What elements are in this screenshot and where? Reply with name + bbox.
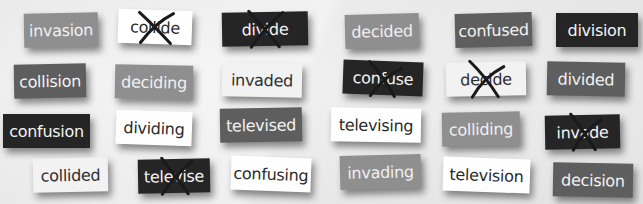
word-card-decided[interactable]: decided (345, 13, 420, 49)
word-label: invading (347, 162, 414, 183)
word-card-invade[interactable]: invade (545, 114, 621, 149)
word-label: collided (40, 165, 100, 185)
word-card-collide[interactable]: collide (117, 9, 192, 46)
word-card-invaded[interactable]: invaded (222, 62, 303, 97)
word-label: dividing (123, 117, 185, 138)
word-label: televised (226, 115, 296, 135)
word-card-invading[interactable]: invading (340, 154, 422, 190)
word-label: decided (351, 21, 413, 42)
word-card-deciding[interactable]: deciding (115, 64, 194, 99)
word-label: collide (130, 17, 180, 38)
word-label: invade (556, 122, 608, 142)
word-card-decision[interactable]: decision (553, 162, 634, 197)
word-label: confusion (9, 122, 84, 141)
word-card-televise[interactable]: televise (138, 158, 211, 193)
word-label: deciding (121, 72, 187, 92)
word-label: televise (144, 166, 204, 186)
word-label: invasion (29, 20, 93, 40)
word-card-confusion[interactable]: confusion (3, 114, 90, 148)
word-label: divide (241, 19, 288, 39)
word-label: division (568, 21, 627, 40)
word-card-decide[interactable]: decide (446, 61, 527, 96)
word-card-division[interactable]: division (556, 13, 638, 47)
word-label: divided (558, 69, 615, 89)
word-card-collided[interactable]: collided (33, 157, 109, 192)
word-label: confusing (233, 163, 309, 185)
word-label: confused (458, 20, 529, 41)
word-card-televising[interactable]: televising (331, 107, 422, 143)
word-card-confused[interactable]: confused (455, 12, 533, 48)
word-card-televised[interactable]: televised (220, 107, 303, 142)
word-card-television[interactable]: television (442, 156, 530, 193)
word-label: colliding (449, 119, 513, 139)
word-label: television (449, 164, 524, 186)
word-label: decide (460, 69, 512, 89)
word-card-divided[interactable]: divided (547, 61, 626, 96)
word-label: decision (561, 170, 625, 190)
word-card-colliding[interactable]: colliding (442, 111, 521, 146)
word-card-confusing[interactable]: confusing (230, 156, 311, 193)
word-card-invasion[interactable]: invasion (24, 12, 99, 47)
word-label: televising (339, 115, 414, 135)
word-label: confuse (352, 67, 413, 88)
word-label: collision (19, 71, 81, 91)
word-card-dividing[interactable]: dividing (115, 110, 192, 147)
word-card-collision[interactable]: collision (14, 63, 87, 98)
word-card-confuse[interactable]: confuse (342, 60, 423, 97)
word-card-divide[interactable]: divide (222, 11, 309, 46)
word-label: invaded (231, 70, 293, 90)
